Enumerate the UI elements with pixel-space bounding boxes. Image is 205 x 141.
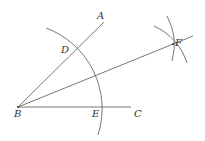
arc-from-e: [154, 26, 187, 63]
label-c: C: [134, 108, 142, 119]
label-b: B: [13, 108, 21, 119]
label-d: D: [60, 44, 69, 55]
label-a: A: [96, 10, 104, 21]
label-e: E: [91, 108, 100, 119]
label-f: F: [174, 37, 183, 48]
arc-from-d: [167, 16, 174, 61]
ray-bf-bisector: [18, 36, 193, 107]
ray-ba: [18, 22, 104, 107]
point-f: [172, 43, 174, 45]
angle-bisector-diagram: A B C D E F: [0, 0, 205, 141]
